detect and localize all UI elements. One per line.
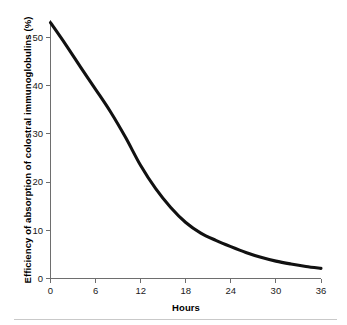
chart-background	[0, 0, 347, 325]
x-tick-label: 18	[181, 285, 192, 296]
y-tick-label: 20	[32, 176, 43, 187]
x-axis-title: Hours	[172, 302, 200, 313]
chart-figure: 0 10 20 30 40 50 0 6 12 18 24 30 36	[0, 0, 347, 325]
y-tick-label: 30	[32, 128, 43, 139]
y-axis-title: Efficiency of absorption of colostral im…	[22, 17, 33, 284]
x-tick-label: 30	[271, 285, 282, 296]
y-tick-label: 40	[32, 80, 43, 91]
line-chart: 0 10 20 30 40 50 0 6 12 18 24 30 36	[0, 0, 347, 325]
x-tick-label: 24	[226, 285, 237, 296]
x-tick-label: 0	[48, 285, 53, 296]
y-tick-label: 50	[32, 32, 43, 43]
x-tick-label: 36	[316, 285, 327, 296]
x-tick-label: 6	[93, 285, 98, 296]
y-tick-label: 10	[32, 225, 43, 236]
bottom-divider	[14, 319, 337, 320]
x-tick-label: 12	[135, 285, 146, 296]
y-tick-label: 0	[38, 273, 43, 284]
